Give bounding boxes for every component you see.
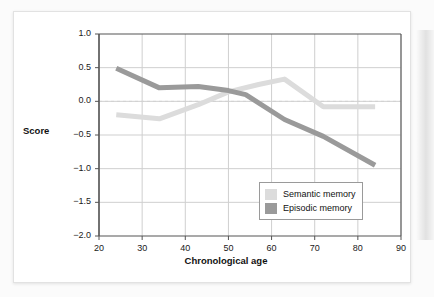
x-axis-title: Chronological age xyxy=(14,255,410,266)
chart-legend: Semantic memory Episodic memory xyxy=(259,182,363,220)
legend-item-semantic-memory: Semantic memory xyxy=(265,187,356,201)
y-axis-title: Score xyxy=(23,125,49,136)
x-tick-label: 60 xyxy=(259,243,285,253)
x-tick-label: 40 xyxy=(172,243,198,253)
y-tick-label: −1.5 xyxy=(59,196,91,206)
line-chart: Score Chronological age 1.00.50.0−0.5−1.… xyxy=(14,12,410,282)
page-root: Score Chronological age 1.00.50.0−0.5−1.… xyxy=(0,0,434,297)
y-tick-label: −0.5 xyxy=(59,129,91,139)
page-edge-shadow xyxy=(416,30,434,240)
figure-card: Score Chronological age 1.00.50.0−0.5−1.… xyxy=(13,11,411,283)
legend-item-episodic-memory: Episodic memory xyxy=(265,201,356,215)
x-tick-label: 70 xyxy=(302,243,328,253)
x-tick-label: 90 xyxy=(388,243,414,253)
y-tick-label: 0.0 xyxy=(59,95,91,105)
legend-label-episodic-memory: Episodic memory xyxy=(283,203,352,214)
y-tick-label: 1.0 xyxy=(59,28,91,38)
legend-swatch-episodic-memory xyxy=(265,203,277,214)
x-tick-label: 50 xyxy=(215,243,241,253)
y-tick-label: 0.5 xyxy=(59,62,91,72)
legend-swatch-semantic-memory xyxy=(265,189,277,200)
y-tick-label: −1.0 xyxy=(59,163,91,173)
data-series xyxy=(116,68,375,165)
plot-canvas xyxy=(14,12,410,282)
y-tick-label: −2.0 xyxy=(59,230,91,240)
x-tick-label: 80 xyxy=(345,243,371,253)
x-tick-label: 20 xyxy=(86,243,112,253)
legend-label-semantic-memory: Semantic memory xyxy=(283,189,356,200)
x-tick-label: 30 xyxy=(129,243,155,253)
